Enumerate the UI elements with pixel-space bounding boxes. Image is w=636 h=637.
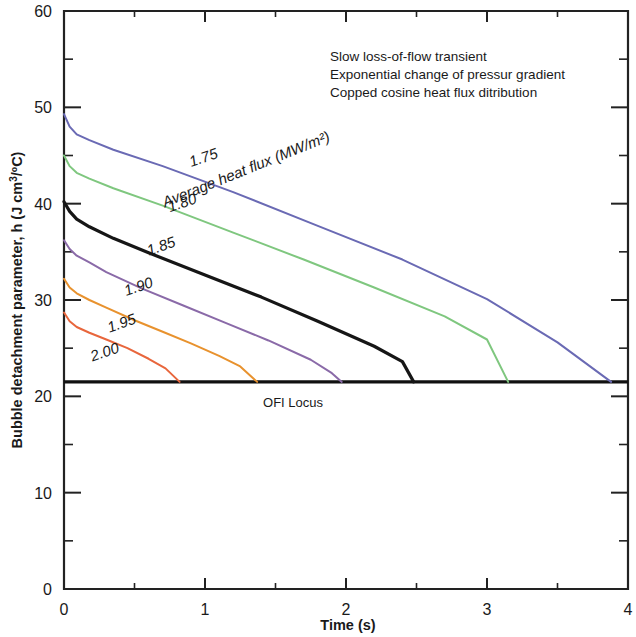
x-tick-label: 1 <box>201 601 210 618</box>
ofi-locus-label: OFI Locus <box>263 395 323 410</box>
x-tick-label: 4 <box>624 601 633 618</box>
x-tick-label: 0 <box>60 601 69 618</box>
annotation-line: Copped cosine heat flux ditribution <box>330 85 537 100</box>
chart-background <box>0 0 636 637</box>
y-axis-title-unit-open: (J cm <box>9 182 25 224</box>
y-tick-label: 0 <box>43 581 52 598</box>
x-tick-label: 3 <box>483 601 492 618</box>
y-tick-label: 20 <box>34 388 52 405</box>
y-axis-title-unit-close: /ºC) <box>9 151 25 176</box>
y-axis-title-symbol: h <box>9 224 25 233</box>
x-tick-label: 2 <box>342 601 351 618</box>
annotation-line: Slow loss-of-flow transient <box>330 49 487 64</box>
line-chart: 01234 0102030405060 1.751.801.851.901.95… <box>0 0 636 637</box>
annotation-line: Exponential change of pressur gradient <box>330 67 565 82</box>
y-tick-label: 10 <box>34 485 52 502</box>
y-axis-title-prefix: Bubble detachment parameter, <box>9 233 25 449</box>
y-tick-label: 50 <box>34 99 52 116</box>
chart-figure: 01234 0102030405060 1.751.801.851.901.95… <box>0 0 636 637</box>
y-tick-label: 30 <box>34 292 52 309</box>
y-axis-title: Bubble detachment parameter, h (J cm3/ºC… <box>8 151 26 448</box>
y-tick-label: 40 <box>34 196 52 213</box>
y-tick-label: 60 <box>34 3 52 20</box>
x-axis-title: Time (s) <box>320 617 376 633</box>
